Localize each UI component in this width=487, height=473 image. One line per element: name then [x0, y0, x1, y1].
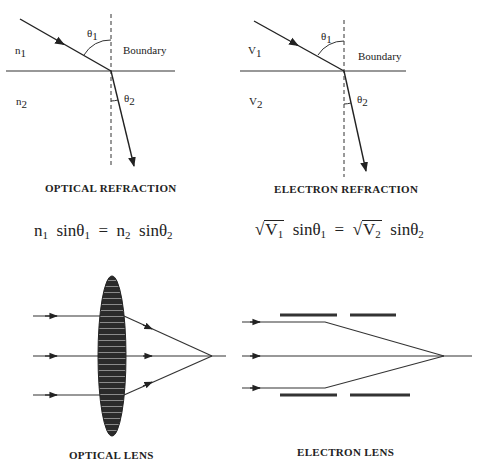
- lens-shape: [98, 276, 126, 436]
- electron-refraction-caption: ELECTRON REFRACTION: [274, 183, 418, 195]
- optical-refraction-caption: OPTICAL REFRACTION: [45, 182, 177, 194]
- arrow-icon: [143, 382, 152, 386]
- theta1-label: θ1: [87, 27, 98, 42]
- boundary-label: Boundary: [123, 44, 166, 56]
- theta1-label: θ1: [321, 30, 332, 45]
- boundary-label: Boundary: [358, 50, 401, 62]
- refracted-ray: [111, 71, 134, 166]
- angle1-arc: [84, 40, 111, 55]
- angle2-arc: [344, 103, 351, 104]
- optical-equation: n1 sinθ1 = n2 sinθ2: [34, 221, 173, 241]
- arrow-icon: [143, 325, 152, 329]
- medium2-label: n2: [16, 95, 27, 110]
- medium1-label: V1: [248, 44, 261, 59]
- refracted-ray: [344, 71, 366, 171]
- incident-arrow-icon: [292, 42, 298, 46]
- theta2-label: θ2: [124, 92, 135, 107]
- theta2-label: θ2: [357, 93, 368, 108]
- electron-equation: √V1 sinθ1 = √V2 sinθ2: [255, 220, 424, 243]
- incident-arrow-icon: [58, 41, 64, 45]
- optical-lens-diagram: [33, 276, 226, 436]
- electron-lens-caption: ELECTRON LENS: [297, 446, 394, 458]
- medium1-label: n1: [15, 44, 26, 59]
- incident-ray: [254, 21, 344, 71]
- electron-lens-diagram: [242, 315, 472, 395]
- medium2-label: V2: [249, 95, 262, 110]
- optical-lens-caption: OPTICAL LENS: [69, 449, 154, 461]
- angle2-arc: [111, 100, 118, 101]
